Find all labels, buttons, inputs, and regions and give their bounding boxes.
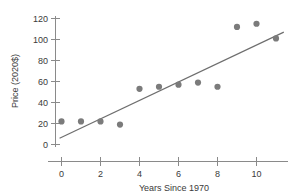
- y-axis-tick-labels: 120 100 80 60 40 20 0: [33, 14, 48, 150]
- y-tick-label: 100: [33, 35, 48, 45]
- data-point: [97, 118, 103, 124]
- plot-canvas: 120 100 80 60 40 20 0 0 2 4 6 8 10 Year: [0, 0, 293, 195]
- x-axis-tick-labels: 0 2 4 6 8 10: [59, 169, 262, 179]
- y-tick-label: 80: [38, 56, 48, 66]
- y-tick-label: 60: [38, 77, 48, 87]
- data-point: [214, 84, 220, 90]
- y-tick-label: 120: [33, 14, 48, 24]
- data-point: [78, 118, 84, 124]
- y-tick-label: 40: [38, 98, 48, 108]
- data-point: [117, 121, 123, 127]
- data-point: [253, 21, 259, 27]
- data-point: [195, 79, 201, 85]
- x-axis-title: Years Since 1970: [139, 183, 209, 193]
- data-point: [175, 82, 181, 88]
- x-tick-label: 2: [98, 169, 103, 179]
- data-point: [156, 84, 162, 90]
- scatter-plot-figure: 120 100 80 60 40 20 0 0 2 4 6 8 10 Year: [0, 0, 293, 195]
- data-point-group: [58, 21, 279, 128]
- trend-line: [60, 32, 284, 138]
- x-tick-label: 0: [59, 169, 64, 179]
- x-tick-label: 10: [251, 169, 261, 179]
- data-point: [136, 86, 142, 92]
- x-tick-label: 4: [137, 169, 142, 179]
- y-axis-title: Price (2020$): [10, 54, 20, 108]
- y-tick-label: 20: [38, 119, 48, 129]
- x-tick-label: 8: [215, 169, 220, 179]
- x-tick-label: 6: [176, 169, 181, 179]
- data-point: [273, 35, 279, 41]
- y-tick-label: 0: [43, 140, 48, 150]
- data-point: [234, 24, 240, 30]
- data-point: [58, 118, 64, 124]
